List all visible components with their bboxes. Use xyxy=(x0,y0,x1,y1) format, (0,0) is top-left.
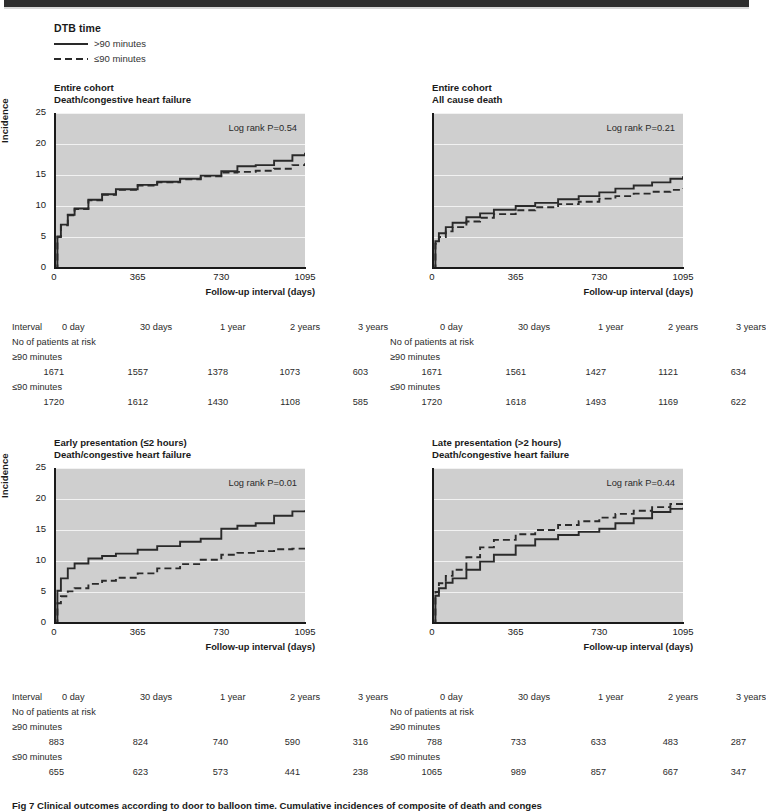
x-tick-label: 1095 xyxy=(672,626,693,637)
at-risk-label: No of patients at risk xyxy=(390,337,762,352)
x-axis-title: Follow-up interval (days) xyxy=(205,287,315,297)
x-tick-label: 0 xyxy=(429,271,434,282)
y-axis-line xyxy=(432,468,434,623)
x-axis-title: Follow-up interval (days) xyxy=(583,642,693,652)
risk-table-cell: 316 xyxy=(12,737,368,747)
x-tick-label: 730 xyxy=(591,271,607,282)
risk-table-row: 788733633483287 xyxy=(390,737,762,752)
panel-title: Entire cohortAll cause death xyxy=(432,82,696,105)
interval-label: Interval xyxy=(12,692,42,702)
risk-table-header: 0 day30 days1 year2 years3 years xyxy=(390,322,762,337)
risk-group-label: ≤90 minutes xyxy=(390,382,762,397)
y-tick-label: 5 xyxy=(41,230,46,241)
x-axis-line xyxy=(54,622,306,624)
chart-panel-entire-cohort-all-cause-death: Entire cohortAll cause deathLog rank P=0… xyxy=(378,82,696,285)
x-tick-label: 0 xyxy=(429,626,434,637)
x-tick-label: 1095 xyxy=(294,626,315,637)
survival-curves xyxy=(54,468,305,623)
risk-table-column-header: 0 day xyxy=(440,322,462,332)
risk-table-row: 1720161814931169622 xyxy=(390,397,762,412)
solid-line-icon xyxy=(54,39,88,49)
risk-table-column-header: 0 day xyxy=(62,692,84,702)
risk-table-column-header: 30 days xyxy=(140,692,172,702)
risk-table-column-header: 1 year xyxy=(598,692,624,702)
risk-table-column-header: 1 year xyxy=(220,322,246,332)
curve-below-90 xyxy=(432,502,683,623)
x-tick-label: 730 xyxy=(591,626,607,637)
risk-table-column-header: 1 year xyxy=(598,322,624,332)
risk-table-column-header: 1 year xyxy=(220,692,246,702)
y-axis-tick-labels: 0510152025 xyxy=(0,462,50,632)
risk-group-label: ≥90 minutes xyxy=(390,352,762,367)
log-rank-p-value: Log rank P=0.01 xyxy=(229,478,298,488)
dashed-line-icon xyxy=(54,54,88,64)
risk-table-column-header: 30 days xyxy=(140,322,172,332)
risk-table-column-header: 0 day xyxy=(62,322,84,332)
x-tick-label: 730 xyxy=(213,626,229,637)
y-tick-label: 15 xyxy=(35,523,46,534)
interval-label: Interval xyxy=(12,322,42,332)
y-tick-label: 15 xyxy=(35,168,46,179)
risk-table-entire-cohort-death-chf: Interval0 day30 days1 year2 years3 years… xyxy=(12,322,384,412)
legend-item-above-90: >90 minutes xyxy=(54,38,146,49)
figure-caption: Fig 7 Clinical outcomes according to doo… xyxy=(12,800,752,811)
risk-table-column-header: 2 years xyxy=(668,692,698,702)
risk-table-cell: 347 xyxy=(390,767,746,777)
risk-table-row: 1065989857667347 xyxy=(390,767,762,782)
plot-background: Log rank P=0.44 xyxy=(432,468,683,623)
risk-table-column-header: 3 years xyxy=(358,692,388,702)
panel-title: Entire cohortDeath/congestive heart fail… xyxy=(54,82,318,105)
y-tick-label: 10 xyxy=(35,199,46,210)
risk-table-cell: 622 xyxy=(390,397,746,407)
chart-area: Log rank P=0.2103657301095Follow-up inte… xyxy=(378,107,696,285)
risk-group-label: ≥90 minutes xyxy=(12,722,384,737)
plot-background: Log rank P=0.01 xyxy=(54,468,305,623)
x-axis-line xyxy=(54,267,306,269)
risk-table-header: Interval0 day30 days1 year2 years3 years xyxy=(12,692,384,707)
panel-title-line2: All cause death xyxy=(432,94,502,105)
legend-item-label: ≤90 minutes xyxy=(94,53,146,64)
risk-group-label: ≤90 minutes xyxy=(12,382,384,397)
y-tick-label: 20 xyxy=(35,492,46,503)
at-risk-label: No of patients at risk xyxy=(12,337,384,352)
chart-area: Log rank P=0.4403657301095Follow-up inte… xyxy=(378,462,696,640)
panel-title-line2: Death/congestive heart failure xyxy=(54,449,191,460)
y-tick-label: 25 xyxy=(35,106,46,117)
at-risk-label: No of patients at risk xyxy=(390,707,762,722)
survival-curves xyxy=(432,113,683,268)
risk-table-row: 655623573441238 xyxy=(12,767,384,782)
page-top-rule xyxy=(4,0,749,7)
chart-panel-early-presentation-death-chf: Early presentation (≤2 hours)Death/conge… xyxy=(0,437,318,640)
y-tick-label: 0 xyxy=(41,616,46,627)
panel-title-line1: Early presentation (≤2 hours) xyxy=(54,437,187,448)
legend-item-below-90: ≤90 minutes xyxy=(54,53,146,64)
x-axis-title: Follow-up interval (days) xyxy=(583,287,693,297)
risk-table-row: 1720161214301108585 xyxy=(12,397,384,412)
legend-title: DTB time xyxy=(54,22,146,34)
risk-group-label: ≥90 minutes xyxy=(12,352,384,367)
y-axis-tick-labels: 0510152025 xyxy=(0,107,50,277)
risk-table-row: 1671155713781073603 xyxy=(12,367,384,382)
chart-panel-entire-cohort-death-chf: Entire cohortDeath/congestive heart fail… xyxy=(0,82,318,285)
x-axis-line xyxy=(432,267,684,269)
curve-above-90 xyxy=(432,176,683,268)
risk-table-column-header: 30 days xyxy=(518,692,550,702)
log-rank-p-value: Log rank P=0.54 xyxy=(229,123,298,133)
risk-group-label: ≤90 minutes xyxy=(12,752,384,767)
plot-background: Log rank P=0.54 xyxy=(54,113,305,268)
x-tick-label: 0 xyxy=(51,626,56,637)
panel-title-line1: Entire cohort xyxy=(432,82,492,93)
risk-table-entire-cohort-all-cause-death: 0 day30 days1 year2 years3 yearsNo of pa… xyxy=(390,322,762,412)
risk-table-cell: 585 xyxy=(12,397,368,407)
risk-table-column-header: 2 years xyxy=(668,322,698,332)
x-tick-label: 365 xyxy=(130,626,146,637)
risk-table-column-header: 3 years xyxy=(736,692,766,702)
x-tick-label: 730 xyxy=(213,271,229,282)
risk-table-header: 0 day30 days1 year2 years3 years xyxy=(390,692,762,707)
panel-title-line2: Death/congestive heart failure xyxy=(54,94,191,105)
log-rank-p-value: Log rank P=0.21 xyxy=(607,123,676,133)
risk-group-label: ≤90 minutes xyxy=(390,752,762,767)
risk-table-column-header: 2 years xyxy=(290,322,320,332)
x-tick-label: 1095 xyxy=(672,271,693,282)
panel-title: Late presentation (>2 hours)Death/conges… xyxy=(432,437,696,460)
